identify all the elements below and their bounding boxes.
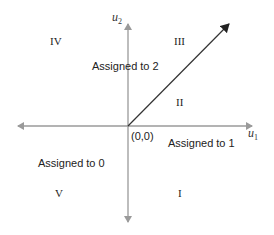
region-label-iii: III bbox=[174, 35, 185, 47]
assigned-to-2-label: Assigned to 2 bbox=[92, 60, 159, 72]
x-axis-label: u1 bbox=[248, 126, 258, 142]
region-label-iv: IV bbox=[50, 35, 62, 47]
region-label-v: V bbox=[55, 187, 63, 199]
assigned-to-0-label: Assigned to 0 bbox=[38, 157, 105, 169]
origin-label: (0,0) bbox=[131, 130, 154, 142]
diagram-canvas bbox=[0, 0, 274, 235]
region-label-ii: II bbox=[176, 96, 183, 108]
y-axis-label: u2 bbox=[112, 10, 122, 26]
assigned-to-1-label: Assigned to 1 bbox=[168, 137, 235, 149]
region-label-i: I bbox=[178, 187, 182, 199]
